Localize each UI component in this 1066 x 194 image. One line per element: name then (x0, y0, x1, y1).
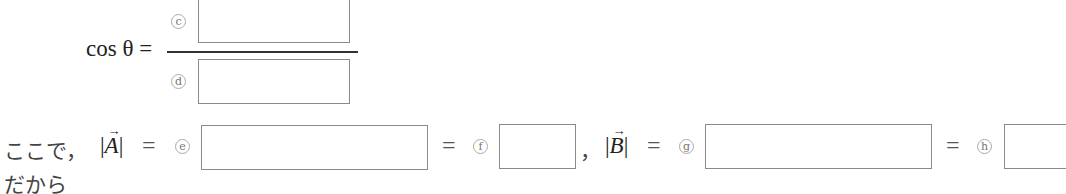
label-g: g (679, 139, 694, 154)
fraction-line (167, 51, 358, 53)
equals-1-text: = (142, 132, 156, 158)
dakara-label: だから (4, 173, 67, 194)
vector-a: →A (105, 133, 119, 159)
kokode-label: ここで， (4, 139, 87, 163)
label-h-text: h (981, 140, 988, 153)
dakara-text: だから (4, 168, 67, 194)
label-c-text: c (175, 15, 181, 28)
equals-2: = (442, 132, 456, 159)
label-c: c (171, 14, 186, 29)
arrow-icon: → (613, 123, 626, 139)
label-e-text: e (179, 140, 186, 153)
equals-4: = (946, 132, 960, 159)
answer-box-d[interactable] (198, 59, 350, 104)
answer-box-f[interactable] (499, 124, 576, 169)
label-g-text: g (683, 140, 690, 153)
arrow-icon: → (108, 123, 121, 139)
equals-3: = (647, 132, 661, 159)
abs-vector-a: |→A| (100, 133, 123, 159)
equals-3-text: = (647, 132, 661, 158)
cos-theta-label: cos θ = (86, 36, 152, 62)
equals-4-text: = (946, 132, 960, 158)
abs-vector-b: |→B| (605, 133, 628, 159)
cos-theta-text: cos θ = (86, 36, 152, 61)
equals-2-text: = (442, 132, 456, 158)
kokode-text: ここで， (4, 134, 87, 164)
label-f: f (473, 139, 488, 154)
comma-separator: ， (580, 134, 601, 164)
answer-box-e[interactable] (201, 125, 428, 170)
label-h: h (977, 139, 992, 154)
comma-text: ， (580, 139, 601, 163)
label-f-text: f (478, 140, 482, 153)
equals-1: = (142, 132, 156, 159)
label-e: e (175, 139, 190, 154)
answer-box-g[interactable] (705, 124, 932, 169)
label-d: d (171, 74, 186, 89)
answer-box-c[interactable] (198, 0, 350, 43)
label-d-text: d (175, 75, 182, 88)
answer-box-h[interactable] (1004, 124, 1066, 169)
vector-b: →B (610, 133, 624, 159)
